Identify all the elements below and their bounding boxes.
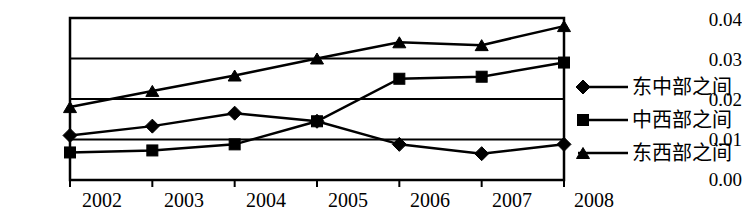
x-axis-tick-label: 2002 [62, 190, 142, 210]
plot-area [0, 0, 742, 215]
data-point-marker-square [559, 57, 570, 68]
series-line-2 [70, 26, 564, 107]
data-point-marker-square [312, 116, 323, 127]
x-axis-tick-label: 2004 [226, 190, 306, 210]
data-point-marker-square [229, 139, 240, 150]
data-point-marker-square [476, 71, 487, 82]
legend-label-series-2: 东西部之间 [632, 143, 732, 163]
data-point-marker-square [65, 147, 76, 158]
data-point-marker-diamond [145, 119, 159, 133]
x-axis-tick-label: 2008 [554, 190, 634, 210]
data-point-marker-square [394, 73, 405, 84]
x-axis-tick-label: 2005 [308, 190, 388, 210]
legend-marker-square [578, 115, 589, 126]
data-point-marker-diamond [228, 106, 242, 120]
line-chart: 0.04 0.03 0.02 0.01 0.00 2002 2003 2004 … [0, 0, 742, 215]
legend-label-series-0: 东中部之间 [632, 77, 732, 97]
x-axis-tick-label: 2006 [390, 190, 470, 210]
data-point-marker-diamond [475, 147, 489, 161]
x-axis-tick-label: 2003 [144, 190, 224, 210]
legend-marker-diamond [576, 80, 590, 94]
x-axis-tick-label: 2007 [472, 190, 552, 210]
data-point-marker-square [147, 145, 158, 156]
legend-label-series-1: 中西部之间 [632, 110, 732, 130]
